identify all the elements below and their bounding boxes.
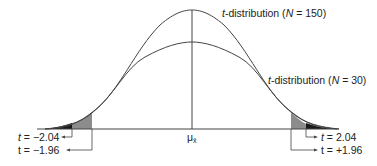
left-outer-value: t = −2.04 <box>18 131 60 143</box>
label-n30: t-distribution (N = 30) <box>268 74 366 86</box>
right-inner-value: t = +1.96 <box>321 144 363 156</box>
right-inner-arrow-icon <box>314 149 318 152</box>
right-outer-arrow-icon <box>314 136 318 139</box>
left-outer-arrow-icon <box>61 136 65 139</box>
label-n150: t-distribution (N = 150) <box>222 7 326 19</box>
left-inner-value: t = −1.96 <box>18 144 60 156</box>
right-grey-tail <box>291 113 306 129</box>
left-inner-arrow-icon <box>66 149 70 152</box>
right-outer-value: t = 2.04 <box>321 131 356 143</box>
mean-label: μx̄ <box>187 131 197 144</box>
right-inner-leader <box>291 129 316 150</box>
t-distribution-diagram: t-distribution (N = 150) t-distribution … <box>0 0 377 166</box>
